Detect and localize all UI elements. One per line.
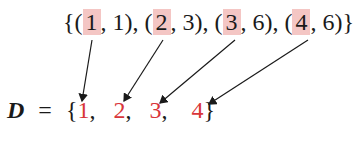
arrow-1 bbox=[82, 40, 92, 101]
domain-set: D = {1, 2, 3, 4} bbox=[7, 96, 215, 124]
domain-close-brace: } bbox=[203, 97, 215, 123]
domain-open-brace: { bbox=[66, 97, 78, 123]
domain-element-3: 3 bbox=[149, 97, 161, 123]
mapping-arrows bbox=[0, 0, 363, 148]
domain-element-1: 1 bbox=[77, 97, 89, 123]
domain-element-4: 4 bbox=[191, 97, 203, 123]
domain-variable: D bbox=[7, 97, 24, 123]
equals-sign: = bbox=[38, 97, 52, 123]
domain-element-2: 2 bbox=[113, 97, 125, 123]
arrow-2 bbox=[124, 40, 163, 101]
arrow-3 bbox=[160, 40, 235, 103]
